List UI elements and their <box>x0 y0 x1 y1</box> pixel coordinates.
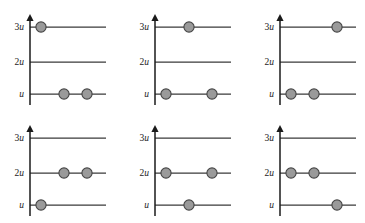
level-label-3u: 3u <box>265 22 275 32</box>
particle-marker-u-slot3 <box>207 89 217 99</box>
axis-arrowhead-icon <box>276 14 283 21</box>
level-label-2u: 2u <box>265 57 275 67</box>
particle-marker-2u-slot3 <box>82 168 92 178</box>
particle-marker-2u-slot2 <box>59 168 69 178</box>
panel-5: 3u2uu <box>125 111 250 223</box>
particle-marker-3u-slot2 <box>184 22 194 32</box>
particle-marker-u-slot1 <box>36 200 46 210</box>
level-label-2u: 2u <box>15 57 25 67</box>
particle-marker-2u-slot3 <box>207 168 217 178</box>
level-label-3u: 3u <box>15 133 25 143</box>
level-label-3u: 3u <box>15 22 25 32</box>
particle-marker-u-slot1 <box>286 89 296 99</box>
particle-marker-3u-slot1 <box>36 22 46 32</box>
level-label-u: u <box>269 89 274 99</box>
panel-grid: 3u2uu3u2uu3u2uu3u2uu3u2uu3u2uu <box>0 0 365 223</box>
panel-3: 3u2uu <box>250 0 365 111</box>
panel-1: 3u2uu <box>0 0 125 111</box>
level-label-u: u <box>269 200 274 210</box>
level-label-u: u <box>19 89 24 99</box>
axis-arrowhead-icon <box>151 125 158 132</box>
panel-4: 3u2uu <box>0 111 125 223</box>
level-label-u: u <box>144 89 149 99</box>
level-label-3u: 3u <box>265 133 275 143</box>
axis-arrowhead-icon <box>151 14 158 21</box>
panel-6: 3u2uu <box>250 111 365 223</box>
particle-marker-2u-slot1 <box>161 168 171 178</box>
level-label-2u: 2u <box>140 168 150 178</box>
particle-marker-u-slot1 <box>161 89 171 99</box>
axis-arrowhead-icon <box>26 125 33 132</box>
level-label-2u: 2u <box>265 168 275 178</box>
axis-arrowhead-icon <box>276 125 283 132</box>
particle-marker-2u-slot1 <box>286 168 296 178</box>
particle-marker-u-slot3 <box>332 200 342 210</box>
panel-2: 3u2uu <box>125 0 250 111</box>
particle-marker-u-slot2 <box>59 89 69 99</box>
level-label-3u: 3u <box>140 22 150 32</box>
axis-arrowhead-icon <box>26 14 33 21</box>
level-label-u: u <box>144 200 149 210</box>
particle-marker-2u-slot2 <box>309 168 319 178</box>
level-label-2u: 2u <box>15 168 25 178</box>
particle-marker-u-slot3 <box>82 89 92 99</box>
particle-marker-u-slot2 <box>309 89 319 99</box>
particle-marker-u-slot2 <box>184 200 194 210</box>
level-label-u: u <box>19 200 24 210</box>
level-label-3u: 3u <box>140 133 150 143</box>
particle-marker-3u-slot3 <box>332 22 342 32</box>
level-label-2u: 2u <box>140 57 150 67</box>
